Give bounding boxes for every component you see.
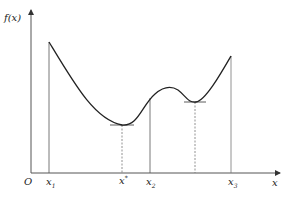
origin-label: O [24, 176, 32, 187]
y-axis-label: f(x) [4, 12, 21, 23]
tick-xstar: x* [119, 174, 128, 186]
tick-x1: x1 [46, 176, 55, 189]
tick-x3: x3 [228, 176, 237, 189]
tick-x2: x2 [146, 176, 155, 189]
function-graph: f(x) x O x1 x* x2 x3 [0, 0, 284, 198]
function-curve [49, 42, 231, 125]
x-axis-label: x [272, 177, 278, 188]
graph-canvas [0, 0, 284, 198]
